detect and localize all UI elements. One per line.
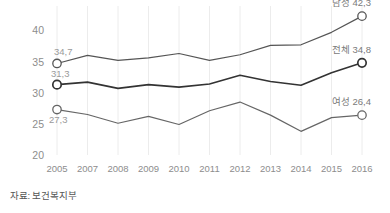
marker-end-전체 xyxy=(358,59,366,67)
y-tick-label-30: 30 xyxy=(32,87,44,99)
marker-end-남성 xyxy=(358,12,366,20)
x-tick-label-2015: 2015 xyxy=(321,163,342,174)
x-tick-label-2011: 2011 xyxy=(199,163,219,174)
x-tick-label-2013: 2013 xyxy=(260,163,281,174)
x-tick-label-2007: 2007 xyxy=(77,163,98,174)
start-label-total: 31,3 xyxy=(51,68,70,79)
y-tick-label-35: 35 xyxy=(32,56,44,68)
series-end-label-전체: 전체 34,8 xyxy=(332,44,371,55)
x-axis-tick-labels: 2005200720082009201020112012201320142015… xyxy=(46,163,372,174)
x-tick-label-2009: 2009 xyxy=(138,163,159,174)
marker-start-여성 xyxy=(53,105,61,113)
x-tick-label-2010: 2010 xyxy=(168,163,189,174)
start-label-female: 27,3 xyxy=(49,114,68,125)
marker-start-전체 xyxy=(53,80,61,88)
source-note: 자료: 보건복지부 xyxy=(10,188,76,202)
y-tick-label-25: 25 xyxy=(32,118,44,130)
series-end-label-남성: 남성 42,3 xyxy=(332,0,371,8)
y-axis-tick-labels: 4035302520 xyxy=(32,24,44,161)
start-label-male: 34,7 xyxy=(54,46,73,57)
marker-start-남성 xyxy=(53,59,61,67)
chart-container: 4035302520 20052007200820092010201120122… xyxy=(0,0,390,213)
x-tick-label-2008: 2008 xyxy=(107,163,128,174)
y-tick-label-40: 40 xyxy=(32,24,44,36)
x-tick-label-2014: 2014 xyxy=(290,163,311,174)
y-tick-label-20: 20 xyxy=(32,149,44,161)
line-chart: 4035302520 20052007200820092010201120122… xyxy=(0,0,390,213)
x-tick-label-2016: 2016 xyxy=(351,163,372,174)
series-end-label-여성: 여성 26,4 xyxy=(332,96,371,107)
vertical-gridlines xyxy=(57,6,362,155)
x-tick-label-2005: 2005 xyxy=(46,163,67,174)
x-tick-label-2012: 2012 xyxy=(229,163,250,174)
marker-end-여성 xyxy=(358,111,366,119)
